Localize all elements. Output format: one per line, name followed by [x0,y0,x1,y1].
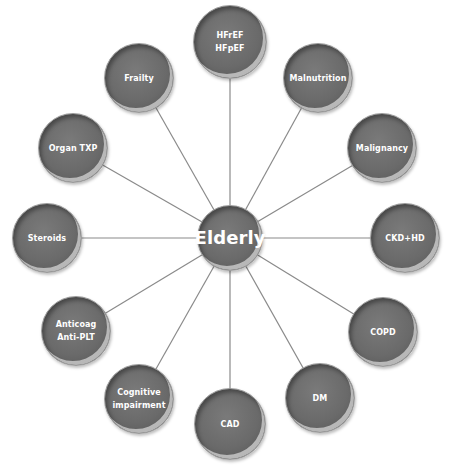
node-label: HFrEF [216,29,243,42]
node-malnut: Malnutrition [283,43,353,113]
node-hf: HFrEFHFpEF [193,5,267,79]
node-copd: COPD [348,297,418,367]
node-steroids: Steroids [12,203,82,273]
node-label: impairment [112,399,165,412]
node-label: Malignancy [356,142,408,155]
node-organtxp: Organ TXP [38,113,108,183]
node-cad: CAD [194,388,266,460]
node-label: Organ TXP [49,142,98,155]
node-ckd: CKD+HD [370,203,440,273]
node-label: Frailty [124,72,154,85]
node-label: DM [313,392,328,405]
node-cognitive: Cognitiveimpairment [104,364,174,434]
node-malig: Malignancy [347,113,417,183]
center-node-elderly: Elderly [197,205,263,271]
node-label: Steroids [28,232,66,245]
node-label: Malnutrition [290,72,347,85]
node-anticoag: AnticoagAnti-PLT [41,296,111,366]
node-label: CKD+HD [385,232,424,245]
node-label: CAD [220,418,239,431]
node-label: COPD [370,326,396,339]
node-label: Cognitive [117,386,161,399]
node-frailty: Frailty [104,43,174,113]
node-label: HFpEF [215,42,244,55]
node-label: Anticoag [56,318,97,331]
node-label: Anti-PLT [57,331,95,344]
node-dm: DM [285,363,355,433]
center-label: Elderly [194,228,265,248]
